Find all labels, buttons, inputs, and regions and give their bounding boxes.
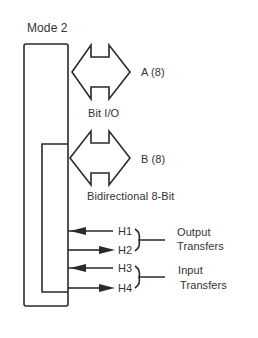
h1-label: H1: [118, 225, 132, 237]
diagram-title: Mode 2: [27, 22, 68, 34]
input-brace: [135, 266, 165, 288]
h1-arrowhead-icon: [70, 227, 86, 235]
h3-arrowhead-icon: [70, 264, 86, 272]
port-a-arrow: [72, 45, 130, 99]
port-b-arrow: [70, 131, 130, 185]
outer-block: [24, 44, 68, 306]
h3-label: H3: [118, 262, 132, 274]
h2-label: H2: [118, 244, 132, 256]
output-group-line2: Transfers: [177, 240, 224, 252]
bidirectional-caption: Bidirectional 8-Bit: [87, 190, 175, 202]
port-b-label: B (8): [141, 153, 165, 165]
input-group-line1: Input: [178, 264, 203, 276]
input-group-line2: Transfers: [180, 279, 227, 291]
output-brace: [135, 229, 165, 251]
h2-arrowhead-icon: [99, 246, 115, 254]
h4-arrowhead-icon: [99, 284, 115, 292]
port-a-label: A (8): [141, 66, 165, 78]
output-group-line1: Output: [177, 226, 211, 238]
inner-block: [42, 144, 68, 292]
h4-label: H4: [118, 282, 132, 294]
bit-io-caption: Bit I/O: [88, 107, 119, 119]
